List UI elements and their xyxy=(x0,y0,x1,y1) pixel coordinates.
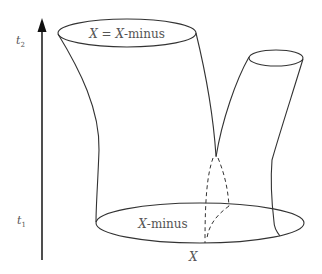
branch-left-wall xyxy=(216,57,249,157)
t1-label: t1 xyxy=(17,214,26,229)
top-ellipse-label: X = X-minus xyxy=(88,27,165,41)
arrow-head-icon xyxy=(38,18,47,32)
cobordism-diagram: t2 t1 X = X-minus X-minus X xyxy=(0,0,322,274)
bottom-point-label: X xyxy=(188,250,198,264)
hidden-lines xyxy=(205,158,229,243)
t2-label: t2 xyxy=(16,34,25,49)
surface-outline xyxy=(58,19,304,243)
main-tube-right-wall xyxy=(196,33,216,156)
time-axis-arrow xyxy=(38,18,47,260)
bottom-ellipse-label: X-minus xyxy=(137,217,187,231)
dashed-right-line xyxy=(218,158,229,206)
left-wall xyxy=(58,34,99,222)
dashed-curve xyxy=(207,206,229,238)
branch-boundary-ellipse xyxy=(249,50,303,66)
